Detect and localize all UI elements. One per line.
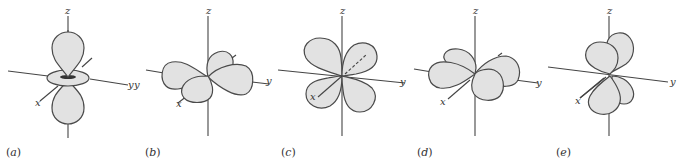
panel-label-b: (b)	[145, 146, 161, 159]
panel-a: z y x (a)	[6, 5, 134, 159]
z-axis-label: z	[339, 5, 346, 16]
axes	[548, 16, 668, 136]
upper-right-lobe	[342, 43, 377, 76]
y-axis-label: y	[265, 75, 272, 86]
y-axis-label: y	[669, 76, 676, 87]
y-axis-label: y	[399, 76, 406, 87]
z-axis-label: z	[606, 5, 613, 16]
panel-e: z y x (e)	[548, 5, 676, 159]
z-axis-label: z	[64, 5, 71, 16]
x-axis-label: x	[35, 97, 41, 108]
upper-left-lobe	[304, 38, 342, 76]
x-axis-label: x	[575, 95, 581, 106]
z-axis-label: z	[472, 5, 479, 16]
upper-lobe	[52, 32, 84, 77]
panel-b: z x (b)	[145, 5, 269, 159]
panel-label-a: (a)	[6, 146, 21, 159]
panel-label-e: (e)	[556, 146, 571, 159]
lower-right-lobe	[342, 76, 375, 112]
y-axis-label: y	[127, 79, 134, 90]
x-axis-label: x	[176, 98, 182, 109]
upper-front-lobe	[586, 42, 618, 74]
front-right-lobe	[472, 69, 504, 100]
z-axis-label: z	[205, 5, 212, 16]
x-axis-label: x	[310, 91, 316, 102]
panel-label-c: (c)	[281, 146, 296, 159]
d-orbitals-figure: z y x (a) z x (b)	[0, 0, 680, 161]
x-axis-label: x	[440, 96, 446, 107]
panel-c: z x (c)	[278, 5, 405, 159]
panel-d: z x (d)	[414, 5, 538, 159]
panel-label-d: (d)	[417, 146, 433, 159]
y-axis-label: y	[133, 79, 140, 90]
y-axis-label: y	[535, 77, 542, 88]
